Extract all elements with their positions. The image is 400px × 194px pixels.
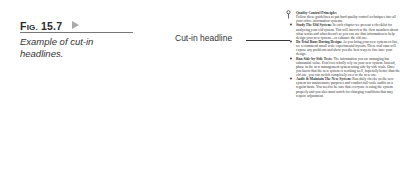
triangle-bullet-icon: ▼ bbox=[289, 77, 293, 81]
figure-label: FIG. 15.7 bbox=[20, 20, 62, 32]
cutin-headline-label: Cut-in headline bbox=[175, 33, 232, 43]
figure-caption: Example of cut-in headlines. bbox=[20, 36, 130, 60]
pushpin-icon bbox=[285, 10, 292, 20]
triangle-bullet-icon: ▼ bbox=[289, 40, 293, 44]
figure-rule-divider bbox=[20, 32, 133, 33]
triangle-bullet-icon: ▼ bbox=[289, 23, 293, 27]
figure-number: 15.7 bbox=[41, 20, 62, 32]
callout-leader-line bbox=[246, 40, 290, 41]
list-item: ▼ Study The Old System: In each chapter … bbox=[296, 23, 400, 39]
list-item: ▼ Run Side-by-Side Tests: The informatio… bbox=[296, 57, 400, 77]
sample-document-page: Quality Control Principles Follow these … bbox=[296, 11, 400, 98]
list-item: ▼ Do Trial Runs During Design: As you br… bbox=[296, 40, 400, 56]
triangle-bullet-icon: ▼ bbox=[289, 57, 293, 61]
triangle-right-icon bbox=[72, 21, 79, 29]
pushpin-icon-svg bbox=[285, 10, 292, 19]
list-item: ▼ Audit & Maintain The New System: Run d… bbox=[296, 77, 400, 97]
document-intro: Follow these guidelines to put hard qual… bbox=[296, 15, 400, 23]
figure-prefix-big: F bbox=[20, 20, 27, 32]
figure-prefix-small: IG. bbox=[27, 23, 38, 32]
